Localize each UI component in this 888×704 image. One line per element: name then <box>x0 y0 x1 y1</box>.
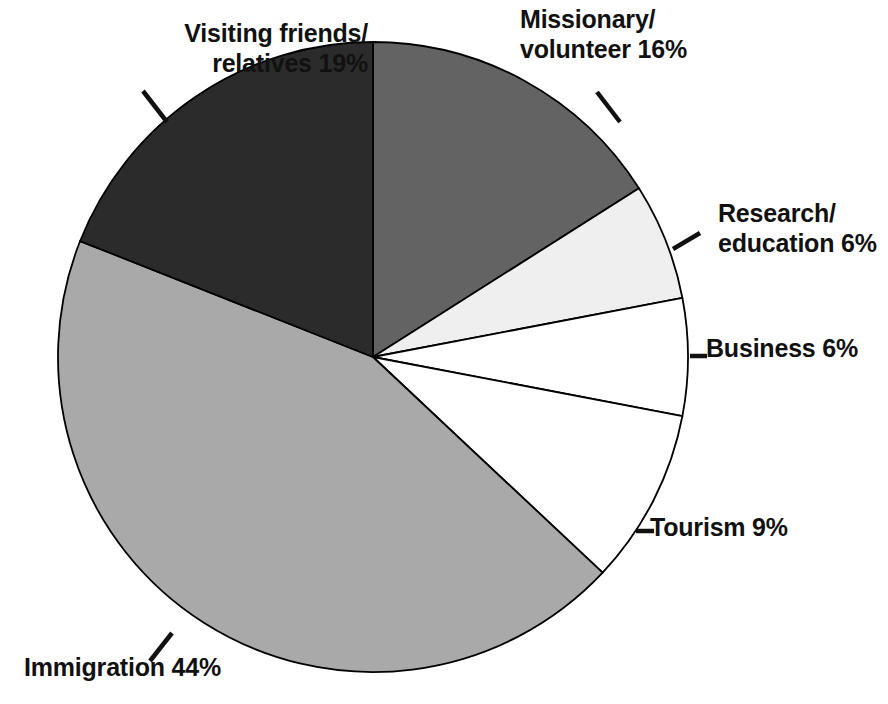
pie-label-business: Business 6% <box>706 333 888 363</box>
leader-line-missionary-volunteer <box>597 92 620 122</box>
pie-label-visiting-friends-relatives: Visiting friends/relatives 19% <box>8 18 368 78</box>
pie-label-business-text: Business 6% <box>706 334 858 362</box>
leader-line-research-education <box>673 233 700 249</box>
pie-label-missionary-volunteer-line2: volunteer 16% <box>520 35 687 63</box>
pie-label-missionary-volunteer-line1: Missionary/ <box>520 5 655 33</box>
pie-label-immigration-text: Immigration 44% <box>24 653 221 681</box>
pie-label-visiting-friends-relatives-line2: relatives 19% <box>212 49 368 77</box>
pie-label-missionary-volunteer: Missionary/volunteer 16% <box>520 4 860 64</box>
pie-label-tourism-text: Tourism 9% <box>650 513 788 541</box>
pie-label-immigration: Immigration 44% <box>24 652 324 682</box>
pie-chart-figure: Visiting friends/relatives 19% Missionar… <box>0 0 888 704</box>
pie-label-tourism: Tourism 9% <box>650 512 880 542</box>
pie-label-research-education-line2: education 6% <box>718 229 877 257</box>
pie-label-visiting-friends-relatives-line1: Visiting friends/ <box>184 19 368 47</box>
leader-line-visiting-friends <box>143 91 167 122</box>
pie-label-research-education: Research/education 6% <box>718 198 888 258</box>
pie-label-research-education-line1: Research/ <box>718 199 836 227</box>
